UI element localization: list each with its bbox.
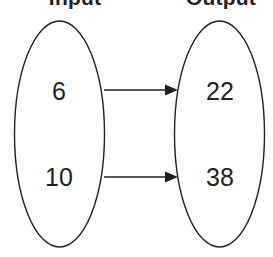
input-value-1: 6 [52,79,66,104]
arrow-6-to-22 [104,85,178,96]
arrow-10-to-38 [104,172,178,183]
input-value-2: 10 [45,165,73,190]
mapping-diagram: Input Output 6 10 22 38 [0,0,273,257]
output-value-2: 38 [206,165,234,190]
output-set-ellipse [175,21,265,247]
input-set-ellipse [15,21,105,247]
output-value-1: 22 [206,79,234,104]
diagram-canvas [0,0,273,257]
